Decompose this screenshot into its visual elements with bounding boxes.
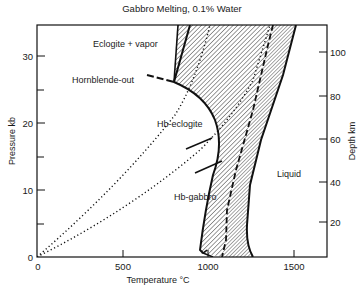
label-hb-gabbro: Hb-gabbro	[174, 192, 217, 202]
label-eclogite-vapor: Eclogite + vapor	[93, 39, 158, 49]
y-axis-label: Pressure kb	[7, 117, 17, 165]
tie-line-upper	[186, 138, 212, 149]
x-tick-1500: 1500	[283, 261, 304, 272]
y-tick-30: 30	[22, 51, 33, 62]
x-tick-1000: 1000	[197, 261, 218, 272]
y2-axis-label: Depth km	[347, 122, 357, 161]
depth-tick-20: 20	[330, 217, 341, 228]
depth-tick-60: 60	[330, 134, 341, 145]
depth-tick-80: 80	[330, 91, 341, 102]
x-tick-0: 0	[35, 261, 40, 272]
depth-tick-40: 40	[330, 177, 341, 188]
x-axis-label: Temperature °C	[126, 275, 190, 285]
y-tick-10: 10	[22, 185, 33, 196]
label-liquid: Liquid	[277, 169, 301, 179]
x-tick-500: 500	[115, 261, 131, 272]
y-tick-0: 0	[28, 252, 33, 263]
y-tick-20: 20	[22, 118, 33, 129]
label-hb-eclogite: Hb-eclogite	[157, 119, 203, 129]
label-hornblende-out: Hornblende-out	[72, 75, 135, 85]
depth-tick-100: 100	[330, 47, 346, 58]
phase-diagram: 0 500 1000 1500 0 10 20 30 20 40 60 80 1…	[0, 0, 364, 288]
hornblende-out-line	[147, 75, 174, 82]
